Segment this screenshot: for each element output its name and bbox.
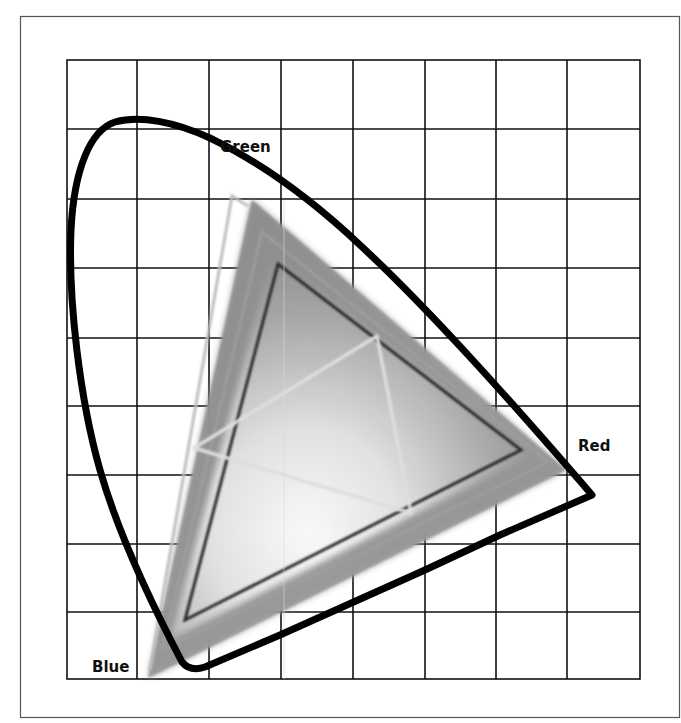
green-label: Green [220,138,271,156]
chromaticity-diagram: Green Red Blue [0,0,681,723]
red-label: Red [578,437,610,455]
blue-label: Blue [92,658,129,676]
